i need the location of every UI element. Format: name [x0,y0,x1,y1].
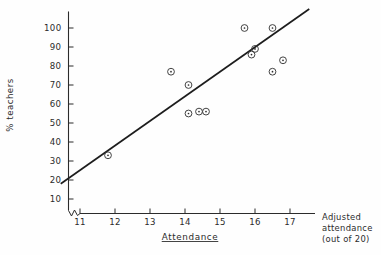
x-axis-note-line-3: (out of 20) [322,234,370,244]
chart-canvas: 10203040506070809010011121314151617 % te… [0,0,381,255]
x-tick-label: 14 [179,217,191,227]
y-tick-label: 80 [50,61,62,71]
x-tick-label: 17 [284,217,296,227]
y-tick-label: 90 [50,42,62,52]
data-point-center-dot [188,113,190,115]
data-point-center-dot [244,27,246,29]
x-tick-label: 13 [144,217,156,227]
scatter-chart-figure: 10203040506070809010011121314151617 % te… [0,0,381,255]
x-tick-label: 16 [249,217,261,227]
data-point-marker [269,25,276,32]
y-tick-label: 10 [50,194,62,204]
data-point-marker [269,68,276,75]
data-point-marker [185,82,192,89]
data-point-center-dot [251,54,253,56]
data-point-center-dot [188,84,190,86]
y-tick-label: 70 [50,80,62,90]
data-point-center-dot [282,59,284,61]
data-point-marker [203,108,210,115]
data-point-center-dot [254,48,256,50]
x-axis-line-with-break [69,206,316,217]
data-point-center-dot [170,71,172,73]
x-tick-label: 15 [214,217,226,227]
x-axis-title: Attendance [162,232,219,242]
data-point-center-dot [198,111,200,113]
y-axis-title: % teachers [5,78,15,131]
x-axis-note-line-1: Adjusted [322,212,361,222]
regression-line [61,9,310,184]
trend-line-group [61,9,310,184]
y-tick-label: 20 [50,175,62,185]
y-tick-label: 60 [50,99,62,109]
y-tick-label: 50 [50,118,62,128]
data-point-marker [280,57,287,64]
data-point-marker [196,108,203,115]
data-point-center-dot [272,27,274,29]
y-tick-label: 100 [44,23,62,33]
x-axis-note-line-2: attendance [322,223,373,233]
data-point-center-dot [107,154,109,156]
y-tick-label: 30 [50,156,62,166]
x-tick-label: 11 [74,217,86,227]
data-point-marker [105,152,112,159]
x-tick-label: 12 [109,217,121,227]
data-point-marker [185,110,192,117]
data-point-marker [241,25,248,32]
y-tick-label: 40 [50,137,62,147]
data-point-center-dot [205,111,207,113]
data-point-marker [168,68,175,75]
tick-labels-group: 10203040506070809010011121314151617 [44,23,296,226]
data-point-center-dot [272,71,274,73]
